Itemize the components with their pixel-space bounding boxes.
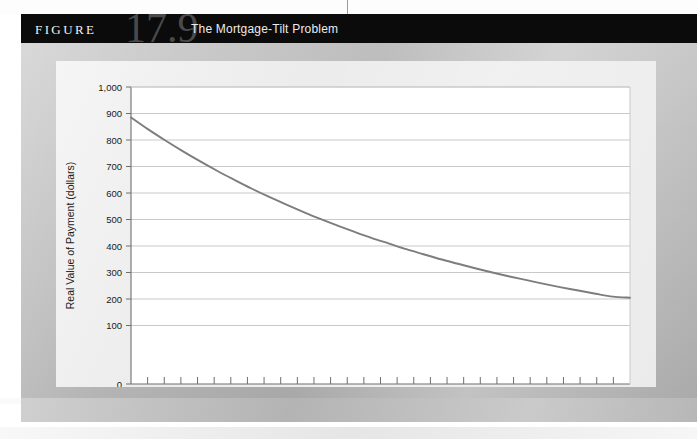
y-axis-tick-label: 1,000 bbox=[98, 82, 122, 93]
bottom-gray-band bbox=[21, 398, 697, 422]
left-margin-strip bbox=[0, 14, 21, 422]
y-axis-tick-label: 400 bbox=[106, 241, 122, 252]
y-axis-tick-label: 500 bbox=[106, 214, 122, 225]
plot-background bbox=[131, 87, 630, 384]
y-axis-title: Real Value of Payment (dollars) bbox=[64, 162, 76, 309]
y-axis-tick-label: 200 bbox=[106, 294, 122, 305]
chart-container: 01002003004005006007008009001,0001234567… bbox=[56, 61, 656, 387]
y-axis-tick-label: 900 bbox=[106, 108, 122, 119]
figure-banner: FIGURE 17.9 The Mortgage-Tilt Problem bbox=[21, 14, 697, 43]
y-axis-tick-label: 0 bbox=[117, 379, 122, 387]
mortgage-tilt-line-chart: 01002003004005006007008009001,0001234567… bbox=[56, 61, 656, 387]
bottom-secondary-band bbox=[0, 427, 697, 439]
y-axis-tick-label: 300 bbox=[106, 267, 122, 278]
top-margin-strip bbox=[0, 0, 697, 14]
figure-page: FIGURE 17.9 The Mortgage-Tilt Problem 01… bbox=[0, 0, 697, 439]
y-axis-tick-label: 700 bbox=[106, 161, 122, 172]
figure-label: FIGURE bbox=[35, 22, 96, 38]
y-axis-tick-label: 800 bbox=[106, 135, 122, 146]
y-axis-tick-label: 100 bbox=[106, 320, 122, 331]
figure-banner-inner: FIGURE 17.9 The Mortgage-Tilt Problem bbox=[21, 14, 697, 43]
y-axis-tick-label: 600 bbox=[106, 188, 122, 199]
figure-number: 17.9 bbox=[125, 14, 199, 43]
figure-title: The Mortgage-Tilt Problem bbox=[191, 22, 338, 36]
